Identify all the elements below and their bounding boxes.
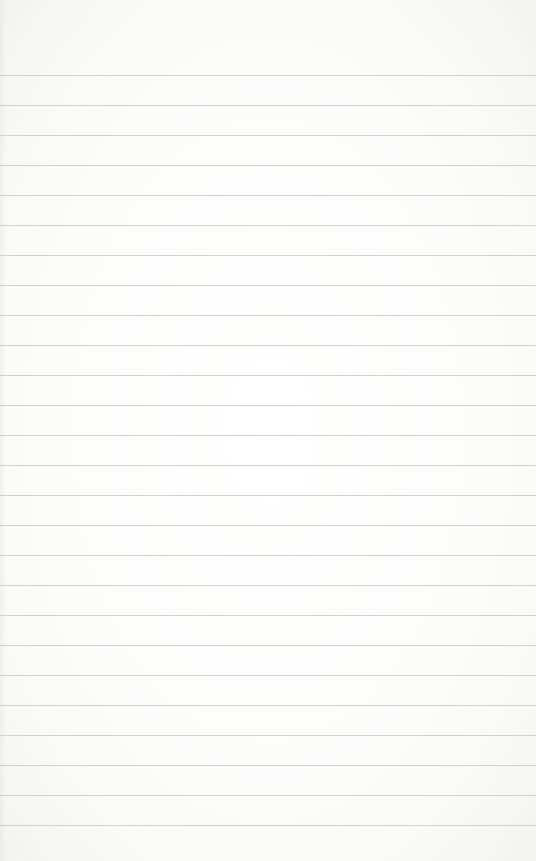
- ruled-line: [0, 255, 536, 256]
- ruled-line: [0, 645, 536, 646]
- ruled-line: [0, 285, 536, 286]
- ruled-line: [0, 105, 536, 106]
- ruled-line: [0, 615, 536, 616]
- ruled-line: [0, 825, 536, 826]
- ruled-line: [0, 345, 536, 346]
- ruled-line: [0, 765, 536, 766]
- ruled-line: [0, 525, 536, 526]
- ruled-line: [0, 735, 536, 736]
- ruled-line: [0, 495, 536, 496]
- ruled-line: [0, 315, 536, 316]
- ruled-line: [0, 585, 536, 586]
- ruled-line: [0, 375, 536, 376]
- ruled-line: [0, 405, 536, 406]
- lined-paper: [0, 0, 536, 861]
- ruled-line: [0, 705, 536, 706]
- ruled-line: [0, 795, 536, 796]
- ruled-line: [0, 435, 536, 436]
- ruled-line: [0, 465, 536, 466]
- ruled-line: [0, 675, 536, 676]
- ruled-line: [0, 75, 536, 76]
- ruled-line: [0, 225, 536, 226]
- ruled-line: [0, 135, 536, 136]
- ruled-line: [0, 555, 536, 556]
- ruled-line: [0, 195, 536, 196]
- ruled-line: [0, 165, 536, 166]
